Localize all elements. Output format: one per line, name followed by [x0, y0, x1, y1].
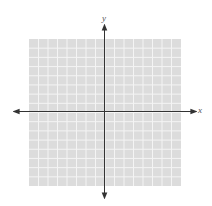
coordinate-grid: [0, 0, 212, 206]
x-axis-label: x: [198, 106, 202, 115]
y-axis-label: y: [102, 14, 106, 23]
coordinate-plane: x y: [0, 0, 212, 206]
